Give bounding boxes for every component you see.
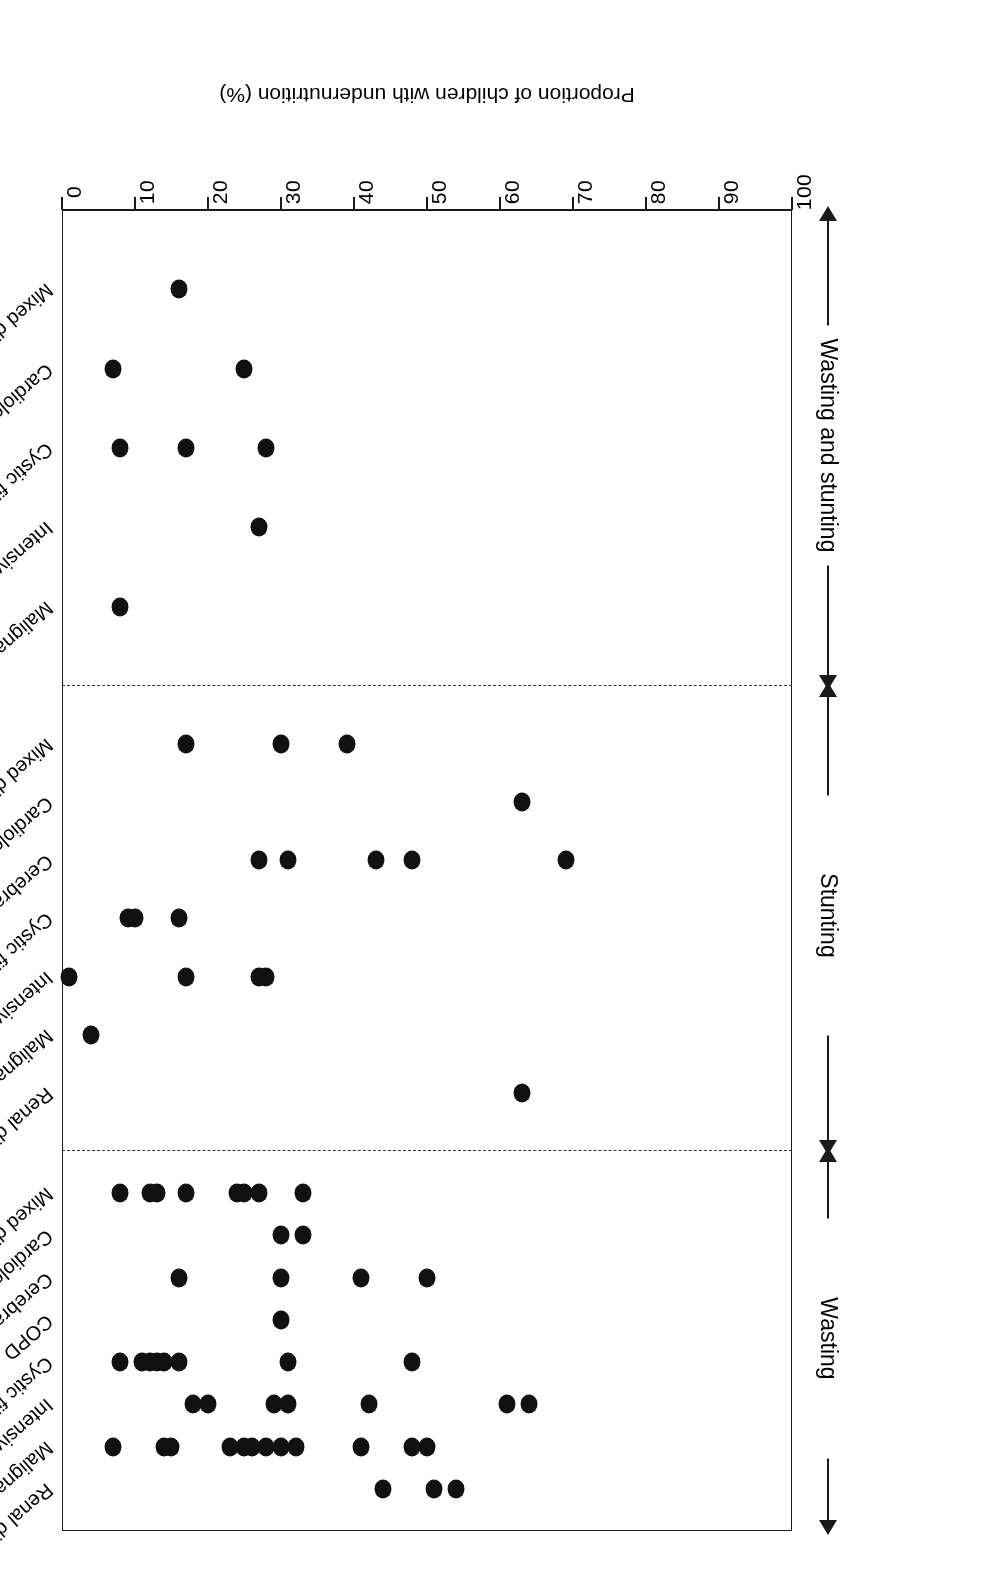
- data-point: [265, 1395, 282, 1414]
- data-point: [521, 1395, 538, 1414]
- data-point: [557, 851, 574, 870]
- data-point: [170, 909, 187, 928]
- data-point: [419, 1268, 436, 1287]
- data-point: [200, 1395, 217, 1414]
- data-point: [178, 735, 195, 754]
- data-point: [338, 735, 355, 754]
- data-point: [134, 1353, 151, 1372]
- data-point: [170, 280, 187, 299]
- data-point: [375, 1479, 392, 1498]
- data-point: [105, 359, 122, 378]
- data-point: [156, 1437, 173, 1456]
- data-point: [178, 439, 195, 458]
- data-point: [448, 1479, 465, 1498]
- data-point: [287, 1437, 304, 1456]
- data-point: [273, 1268, 290, 1287]
- data-point: [141, 1184, 158, 1203]
- figure-root: 1009080706050403020100 Proportion of chi…: [0, 0, 989, 1594]
- data-point: [513, 793, 530, 812]
- data-point: [105, 1437, 122, 1456]
- data-point: [258, 1437, 275, 1456]
- data-point: [170, 1268, 187, 1287]
- data-point: [83, 1025, 100, 1044]
- data-point: [273, 1226, 290, 1245]
- data-point: [280, 1395, 297, 1414]
- data-point: [499, 1395, 516, 1414]
- data-point: [426, 1479, 443, 1498]
- data-point: [367, 851, 384, 870]
- data-point: [273, 1310, 290, 1329]
- data-point: [273, 735, 290, 754]
- data-point: [353, 1268, 370, 1287]
- data-point: [112, 1353, 129, 1372]
- data-point: [178, 967, 195, 986]
- data-points: [0, 0, 989, 1594]
- data-point: [178, 1184, 195, 1203]
- data-point: [294, 1226, 311, 1245]
- data-point: [353, 1437, 370, 1456]
- data-point: [404, 851, 421, 870]
- data-point: [61, 967, 78, 986]
- data-point: [251, 851, 268, 870]
- data-point: [294, 1184, 311, 1203]
- data-point: [229, 1184, 246, 1203]
- data-point: [404, 1353, 421, 1372]
- data-point: [112, 439, 129, 458]
- data-point: [404, 1437, 421, 1456]
- data-point: [280, 851, 297, 870]
- data-point: [221, 1437, 238, 1456]
- data-point: [419, 1437, 436, 1456]
- data-point: [280, 1353, 297, 1372]
- rotated-figure-canvas: 1009080706050403020100 Proportion of chi…: [0, 0, 989, 1594]
- data-point: [251, 518, 268, 537]
- data-point: [251, 967, 268, 986]
- data-point: [258, 439, 275, 458]
- data-point: [236, 1437, 253, 1456]
- data-point: [236, 359, 253, 378]
- data-point: [112, 1184, 129, 1203]
- data-point: [112, 597, 129, 616]
- data-point: [360, 1395, 377, 1414]
- data-point: [273, 1437, 290, 1456]
- data-point: [119, 909, 136, 928]
- data-point: [170, 1353, 187, 1372]
- data-point: [251, 1184, 268, 1203]
- data-point: [513, 1083, 530, 1102]
- data-point: [185, 1395, 202, 1414]
